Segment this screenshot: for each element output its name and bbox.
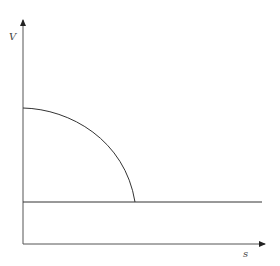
diagram-canvas: V s (0, 0, 280, 266)
quarter-curve (23, 108, 135, 202)
x-axis-label: s (243, 248, 248, 259)
y-axis-label: V (9, 31, 18, 42)
